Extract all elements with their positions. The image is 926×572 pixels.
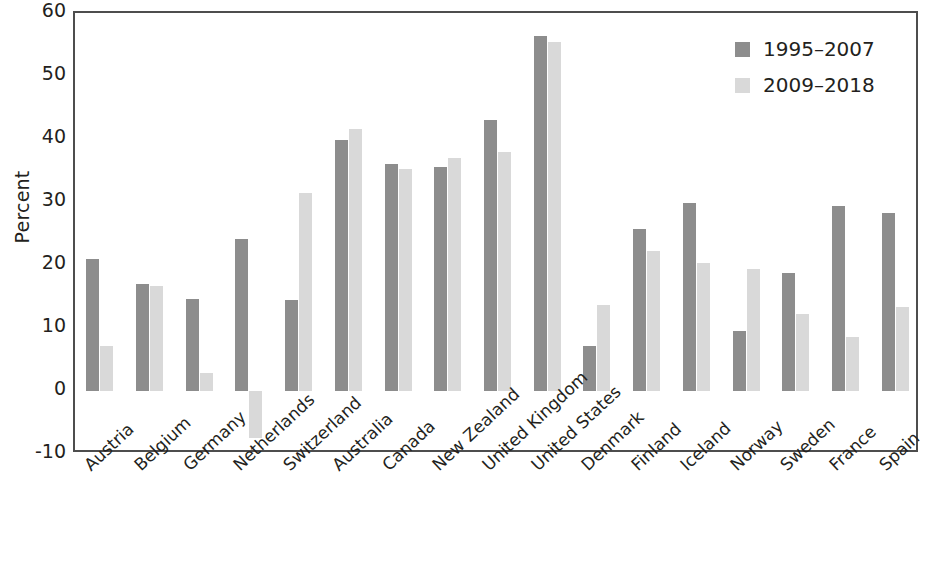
bar xyxy=(896,307,909,391)
bar-group xyxy=(235,13,262,450)
bar xyxy=(597,305,610,391)
bar xyxy=(846,337,859,391)
bar xyxy=(186,299,199,391)
bar xyxy=(349,129,362,391)
y-tick-label: 40 xyxy=(10,127,66,146)
bar-group xyxy=(534,13,561,450)
bar xyxy=(796,314,809,391)
bar xyxy=(633,229,646,391)
bar xyxy=(498,152,511,391)
y-tick-label: 50 xyxy=(10,64,66,83)
bar xyxy=(285,300,298,391)
y-tick-label: 20 xyxy=(10,253,66,272)
bar xyxy=(150,286,163,391)
bar xyxy=(136,284,149,391)
bar xyxy=(200,373,213,391)
bar xyxy=(335,140,348,391)
bar xyxy=(782,273,795,391)
y-tick-label: 0 xyxy=(10,379,66,398)
bar xyxy=(548,42,561,391)
bar xyxy=(448,158,461,391)
bar-group xyxy=(186,13,213,450)
y-tick-label: 30 xyxy=(10,190,66,209)
bar-group xyxy=(136,13,163,450)
legend-item: 2009–2018 xyxy=(735,74,915,96)
bar xyxy=(484,120,497,391)
legend-item: 1995–2007 xyxy=(735,38,915,60)
bar xyxy=(399,169,412,391)
bar xyxy=(86,259,99,391)
bar-group xyxy=(683,13,710,450)
bar xyxy=(697,263,710,391)
y-tick-label: 60 xyxy=(10,1,66,20)
bar xyxy=(747,269,760,391)
bar-group xyxy=(335,13,362,450)
bar-group xyxy=(285,13,312,450)
bar-group xyxy=(385,13,412,450)
y-tick-label: 10 xyxy=(10,316,66,335)
legend-swatch-icon xyxy=(735,42,750,57)
bar-group xyxy=(434,13,461,450)
bar xyxy=(733,331,746,391)
y-axis-tick-labels: -100102030405060 xyxy=(0,0,66,572)
legend-label: 1995–2007 xyxy=(763,37,875,61)
bar xyxy=(647,251,660,391)
bar xyxy=(534,36,547,391)
bar-group xyxy=(484,13,511,450)
legend-swatch-icon xyxy=(735,78,750,93)
bar xyxy=(882,213,895,391)
bar xyxy=(235,239,248,391)
bar xyxy=(299,193,312,391)
bar xyxy=(434,167,447,391)
bar-group xyxy=(633,13,660,450)
bar-chart: Percent -100102030405060 AustriaBelgiumG… xyxy=(0,0,926,572)
y-tick-label: -10 xyxy=(10,442,66,461)
chart-legend: 1995–20072009–2018 xyxy=(735,38,915,110)
x-axis-tick-labels: AustriaBelgiumGermanyNetherlandsSwitzerl… xyxy=(73,452,918,572)
bar-group xyxy=(86,13,113,450)
bar xyxy=(385,164,398,391)
bar xyxy=(832,206,845,391)
bar xyxy=(683,203,696,391)
legend-label: 2009–2018 xyxy=(763,73,875,97)
bar xyxy=(100,346,113,391)
